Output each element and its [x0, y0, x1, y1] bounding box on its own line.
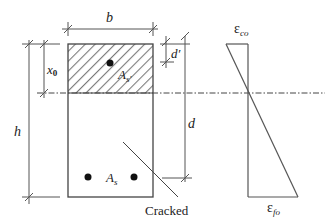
tension-steel-label: As [105, 170, 118, 187]
height-label: h [14, 124, 21, 139]
effective-depth-label: d [188, 116, 196, 131]
tension-steel-bar-left [85, 174, 92, 181]
height-dimension [22, 40, 60, 204]
tension-steel-bar-right [131, 174, 138, 181]
bottom-strain-label: εfo [267, 200, 280, 217]
beam-section-diagram: b As′ As h x0 d′ d Cracked [0, 0, 335, 222]
top-strain-label: εco [234, 21, 249, 38]
strain-diagram [226, 44, 298, 197]
cover-depth-label: d′ [171, 46, 181, 61]
compression-zone-hatch [68, 44, 153, 93]
width-label: b [106, 10, 113, 25]
crack-line [123, 142, 178, 197]
crack-label: Cracked [145, 203, 189, 218]
compression-steel-bar [107, 60, 114, 67]
neutral-axis-depth-label: x0 [46, 62, 58, 78]
